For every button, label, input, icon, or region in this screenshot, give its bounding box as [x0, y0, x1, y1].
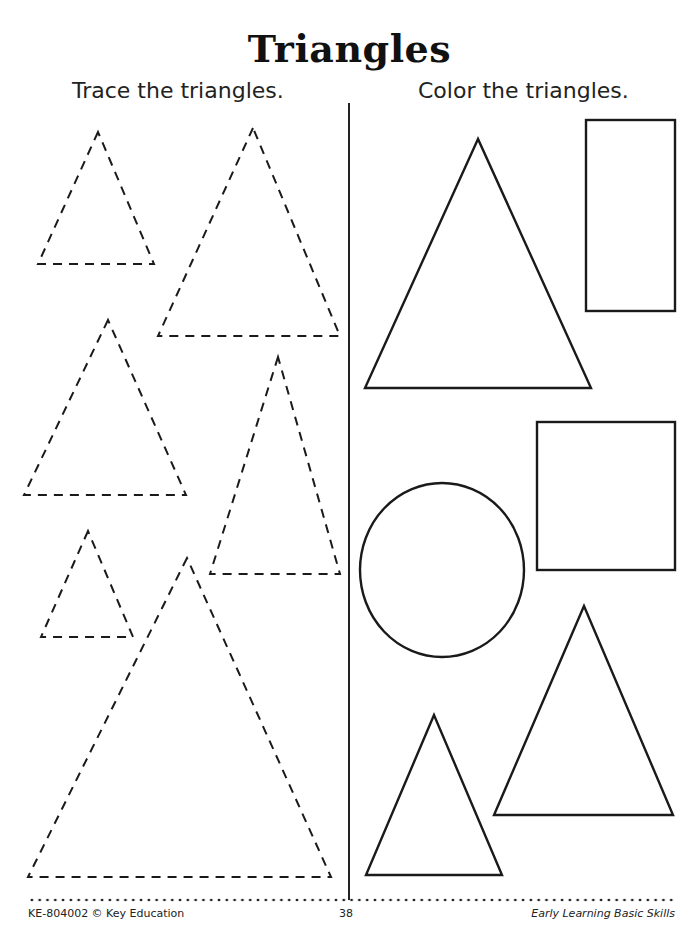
color-triangle-1 [365, 139, 591, 388]
footer-copyright: KE-804002 © Key Education [28, 907, 184, 920]
footer-dotted-rule [28, 898, 676, 902]
trace-triangles-group [24, 128, 340, 877]
trace-triangle-3 [24, 320, 186, 495]
color-circle-4 [360, 483, 524, 657]
trace-triangle-2 [158, 128, 340, 336]
color-triangle-5 [494, 606, 673, 815]
footer-page-number: 38 [339, 907, 353, 920]
color-triangle-6 [366, 715, 502, 875]
trace-triangle-1 [38, 132, 154, 264]
footer-series-title: Early Learning Basic Skills [531, 907, 675, 920]
worksheet-shapes [0, 0, 699, 936]
color-rectangle-2 [586, 120, 675, 311]
color-square-3 [537, 422, 675, 570]
trace-triangle-4 [210, 357, 340, 574]
color-shapes-group [360, 120, 675, 875]
trace-triangle-5 [41, 531, 133, 637]
trace-triangle-6 [28, 558, 331, 877]
